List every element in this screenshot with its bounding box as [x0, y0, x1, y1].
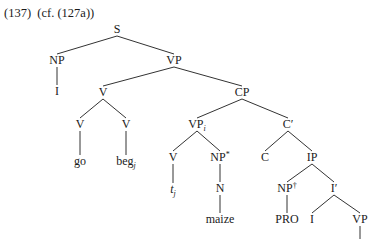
tree-edge-Cbar-IP — [288, 131, 312, 151]
tree-labels: SNPIVPVVgoVbegjCPVPiVtjNP*NmaizeC′CIPNP†… — [49, 22, 368, 226]
tree-node-npdag: NP† — [277, 181, 296, 195]
tree-edge-Ibar-VP2 — [334, 195, 360, 213]
tree-edge-Ibar-I2 — [312, 195, 334, 213]
tree-node-v4: V — [169, 150, 178, 164]
tree-node-i2: I — [310, 212, 314, 226]
tree-node-i1: I — [55, 84, 59, 98]
tree-node-vpi: VPi — [188, 117, 206, 133]
tree-node-ibar: I′ — [331, 181, 338, 195]
tree-node-c: C — [261, 150, 269, 164]
tree-edge-CP-VPi — [197, 99, 242, 118]
tree-edge-V1-V3 — [103, 99, 126, 118]
tree-node-pro: PRO — [275, 212, 299, 226]
tree-edges — [57, 36, 360, 239]
tree-edge-CP-Cbar — [242, 99, 288, 118]
tree-node-tj: tj — [170, 182, 176, 198]
tree-node-npstar: NP* — [210, 150, 229, 164]
tree-node-vp1: VP — [166, 53, 182, 67]
tree-node-vp2: VP — [352, 212, 368, 226]
tree-node-go: go — [74, 154, 86, 168]
tree-edge-IP-NPdag — [287, 164, 312, 182]
tree-node-v2: V — [76, 117, 85, 131]
tree-edge-VPi-NPstar — [197, 131, 220, 151]
tree-node-ip: IP — [307, 150, 318, 164]
tree-edge-S-VP1 — [117, 36, 174, 54]
tree-node-np1: NP — [49, 53, 65, 67]
tree-edge-VPi-V4 — [173, 131, 197, 151]
tree-edge-S-NP1 — [57, 36, 117, 54]
tree-edge-Cbar-C — [265, 131, 288, 151]
syntax-tree: SNPIVPVVgoVbegjCPVPiVtjNP*NmaizeC′CIPNP†… — [0, 0, 375, 239]
tree-edge-V1-V2 — [80, 99, 103, 118]
tree-node-maize: maize — [206, 212, 235, 226]
tree-edge-IP-Ibar — [312, 164, 334, 182]
tree-node-v3: V — [122, 117, 131, 131]
tree-node-v1: V — [99, 85, 108, 99]
tree-node-n: N — [216, 181, 225, 195]
tree-node-cbar: C′ — [283, 117, 294, 131]
tree-edge-VP1-V1 — [103, 67, 174, 86]
tree-node-cp: CP — [235, 85, 250, 99]
tree-node-s: S — [114, 22, 121, 36]
tree-node-beg: begj — [116, 154, 136, 170]
tree-edge-VP1-CP — [174, 67, 242, 86]
